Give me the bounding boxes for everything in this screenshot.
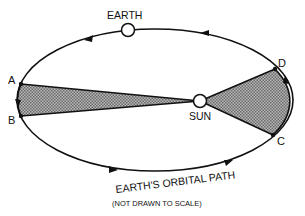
arrow-icon bbox=[200, 30, 209, 36]
sun-icon bbox=[194, 95, 207, 108]
orbital-path-label: EARTH'S ORBITAL PATH bbox=[115, 168, 236, 195]
point-a-marker bbox=[19, 82, 23, 86]
point-a-label: A bbox=[8, 74, 16, 86]
shaded-sector-cd bbox=[200, 69, 290, 135]
arrow-icon bbox=[109, 166, 118, 173]
point-c-marker bbox=[271, 133, 275, 137]
earth-label: EARTH bbox=[107, 9, 142, 21]
point-b-marker bbox=[19, 114, 23, 118]
point-c-label: C bbox=[277, 135, 285, 147]
shaded-sector-ab bbox=[17, 84, 200, 116]
point-d-marker bbox=[273, 67, 277, 71]
scale-note: (NOT DRAWN TO SCALE) bbox=[112, 199, 202, 208]
point-d-label: D bbox=[278, 57, 286, 69]
earth-icon bbox=[122, 24, 135, 37]
point-b-label: B bbox=[8, 114, 15, 126]
orbit-diagram: EARTH SUN A B C D EARTH'S ORBITAL PATH (… bbox=[0, 0, 305, 216]
arrow-icon bbox=[224, 160, 233, 166]
sun-label: SUN bbox=[189, 110, 211, 122]
